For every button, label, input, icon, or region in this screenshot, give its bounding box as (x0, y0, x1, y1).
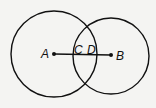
point-b (109, 53, 113, 57)
geometry-diagram: A B C D (0, 0, 156, 108)
label-d: D (87, 43, 96, 57)
label-b: B (116, 49, 124, 63)
diagram-canvas: A B C D (0, 0, 156, 108)
label-c: C (74, 43, 83, 57)
label-a: A (40, 47, 49, 61)
point-a (52, 52, 56, 56)
